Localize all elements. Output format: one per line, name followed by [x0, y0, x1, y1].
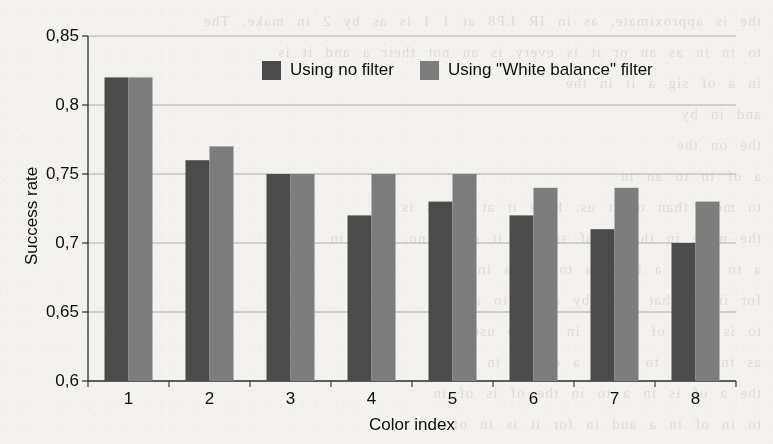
- bar: [453, 174, 477, 381]
- legend-swatch-icon: [420, 61, 439, 80]
- legend-label: Using "White balance" filter: [448, 60, 653, 79]
- bar: [615, 188, 639, 381]
- bar: [291, 174, 315, 381]
- bar: [105, 77, 129, 381]
- x-tick-label: 3: [261, 389, 321, 409]
- bar: [672, 243, 696, 381]
- y-tick-label: 0,85: [46, 26, 79, 46]
- x-tick-label: 2: [180, 389, 240, 409]
- x-tick-label: 8: [666, 389, 726, 409]
- y-axis-label: Success rate: [22, 167, 42, 265]
- bar: [267, 174, 291, 381]
- bar: [210, 146, 234, 381]
- bar: [534, 188, 558, 381]
- y-tick-label: 0,7: [55, 233, 79, 253]
- x-tick-label: 7: [585, 389, 645, 409]
- bar: [186, 160, 210, 381]
- x-axis-label: Color index: [88, 415, 736, 435]
- bar: [348, 215, 372, 381]
- legend-entry[interactable]: Using "White balance" filter: [420, 60, 653, 80]
- bar: [429, 202, 453, 381]
- chart-legend: Using no filterUsing "White balance" fil…: [262, 60, 653, 80]
- bar: [696, 202, 720, 381]
- bar: [510, 215, 534, 381]
- legend-label: Using no filter: [290, 60, 394, 79]
- bar: [372, 174, 396, 381]
- y-tick-label: 0,75: [46, 164, 79, 184]
- x-tick-label: 5: [423, 389, 483, 409]
- legend-swatch-icon: [262, 61, 281, 80]
- y-tick-label: 0,8: [55, 95, 79, 115]
- grouped-bar-chart: 0,60,650,70,750,80,8512345678Success rat…: [0, 0, 773, 444]
- x-tick-label: 1: [99, 389, 159, 409]
- y-tick-label: 0,65: [46, 302, 79, 322]
- y-tick-label: 0,6: [55, 371, 79, 391]
- bar: [129, 77, 153, 381]
- bar: [591, 229, 615, 381]
- x-tick-label: 4: [342, 389, 402, 409]
- legend-entry[interactable]: Using no filter: [262, 60, 394, 80]
- x-tick-label: 6: [504, 389, 564, 409]
